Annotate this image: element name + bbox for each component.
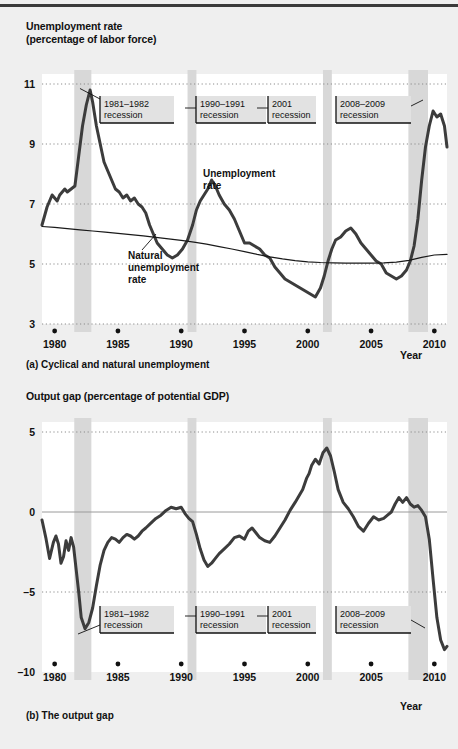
x-tick-dot-2010 bbox=[432, 662, 437, 667]
annotation-line2: recession bbox=[200, 620, 239, 630]
x-tick-label-1990: 1990 bbox=[170, 671, 194, 683]
x-tick-label-1995: 1995 bbox=[233, 671, 257, 683]
natural-rate-series-label-line1: Natural bbox=[128, 250, 163, 261]
output-gap-chart-svg: 50–5–1019801985199019952000200520101981–… bbox=[0, 380, 458, 749]
annotation-line2: recession bbox=[104, 620, 143, 630]
x-tick-label-2005: 2005 bbox=[359, 671, 383, 683]
annotation-line1: 2008–2009 bbox=[340, 99, 385, 109]
recession-band-2 bbox=[188, 70, 197, 332]
x-tick-label-2000: 2000 bbox=[296, 671, 320, 683]
x-tick-dot-1995 bbox=[242, 662, 247, 667]
x-tick-dot-2005 bbox=[369, 329, 374, 334]
y-tick-label--10: –10 bbox=[17, 666, 35, 678]
x-tick-label-1985: 1985 bbox=[106, 338, 130, 350]
recession-band-2 bbox=[188, 418, 197, 680]
unemployment-rate-series-label-line2: rate bbox=[203, 180, 222, 191]
x-tick-label-2010: 2010 bbox=[423, 338, 447, 350]
x-tick-dot-1995 bbox=[242, 329, 247, 334]
annotation-rec9091: 1990–1991recession bbox=[185, 96, 266, 123]
annotation-rec9091: 1990–1991recession bbox=[185, 606, 266, 633]
annotation-line1: 1990–1991 bbox=[200, 609, 245, 619]
x-tick-dot-1980 bbox=[52, 329, 57, 334]
x-tick-dot-2000 bbox=[305, 329, 310, 334]
y-tick-label-5: 5 bbox=[29, 426, 35, 438]
natural-rate-series-label-line2: unemployment bbox=[128, 262, 200, 273]
annotation-line1: 2001 bbox=[272, 609, 292, 619]
x-tick-label-1980: 1980 bbox=[43, 338, 67, 350]
y-tick-label-7: 7 bbox=[29, 198, 35, 210]
x-tick-dot-1980 bbox=[52, 662, 57, 667]
panel-b-caption: (b) The output gap bbox=[26, 710, 114, 721]
x-tick-label-2000: 2000 bbox=[296, 338, 320, 350]
panel-a-caption: (a) Cyclical and natural unemployment bbox=[26, 359, 209, 370]
panel-b-year-axis-label: Year bbox=[400, 700, 422, 712]
annotation-line1: 2008–2009 bbox=[340, 609, 385, 619]
annotation-line2: recession bbox=[200, 110, 239, 120]
x-tick-label-1995: 1995 bbox=[233, 338, 257, 350]
y-tick-label-0: 0 bbox=[29, 506, 35, 518]
panel-cyclical-natural-unemployment: Unemployment rate (percentage of labor f… bbox=[0, 12, 458, 372]
annotation-line2: recession bbox=[340, 110, 379, 120]
x-tick-label-1980: 1980 bbox=[43, 671, 67, 683]
y-tick-label-5: 5 bbox=[29, 258, 35, 270]
plot-background bbox=[42, 422, 447, 672]
x-tick-label-1985: 1985 bbox=[106, 671, 130, 683]
x-tick-dot-2000 bbox=[305, 662, 310, 667]
annotation-line2: recession bbox=[272, 620, 311, 630]
unemployment-rate-series-label-line1: Unemployment bbox=[203, 168, 276, 179]
annotation-line2: recession bbox=[104, 110, 143, 120]
x-tick-dot-2010 bbox=[432, 329, 437, 334]
recession-band-1 bbox=[74, 70, 91, 332]
x-tick-label-2010: 2010 bbox=[423, 671, 447, 683]
x-tick-dot-2005 bbox=[369, 662, 374, 667]
annotation-line2: recession bbox=[272, 110, 311, 120]
y-tick-label-3: 3 bbox=[29, 318, 35, 330]
x-tick-dot-1990 bbox=[179, 662, 184, 667]
y-tick-label--5: –5 bbox=[23, 586, 35, 598]
x-tick-dot-1985 bbox=[116, 662, 121, 667]
recession-band-1 bbox=[74, 418, 91, 680]
recession-band-3 bbox=[323, 70, 332, 332]
unemployment-chart-svg: 11975319801985199019952000200520101981–1… bbox=[0, 12, 458, 372]
annotation-line1: 1981–1982 bbox=[104, 99, 149, 109]
recession-band-4 bbox=[408, 418, 428, 680]
y-tick-label-9: 9 bbox=[29, 138, 35, 150]
annotation-rec0809: 2008–2009recession bbox=[336, 96, 423, 123]
x-tick-dot-1990 bbox=[179, 329, 184, 334]
annotation-line1: 1981–1982 bbox=[104, 609, 149, 619]
panel-a-year-axis-label: Year bbox=[400, 349, 422, 361]
x-tick-label-1990: 1990 bbox=[170, 338, 194, 350]
x-tick-label-2005: 2005 bbox=[359, 338, 383, 350]
annotation-line2: recession bbox=[340, 620, 379, 630]
natural-rate-series-label-line3: rate bbox=[128, 274, 147, 285]
y-tick-label-11: 11 bbox=[24, 78, 35, 90]
annotation-line1: 1990–1991 bbox=[200, 99, 245, 109]
top-divider-rule bbox=[0, 4, 458, 7]
panel-output-gap: Output gap (percentage of potential GDP)… bbox=[0, 380, 458, 749]
annotation-line1: 2001 bbox=[272, 99, 292, 109]
x-tick-dot-1985 bbox=[116, 329, 121, 334]
